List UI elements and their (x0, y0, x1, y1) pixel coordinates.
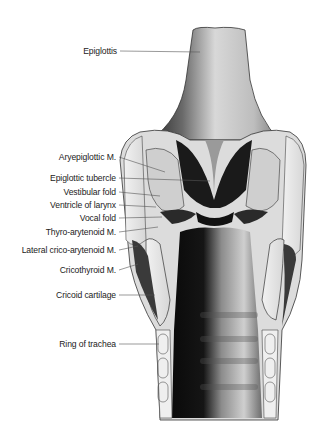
larynx-diagram: EpiglottisAryepiglottic M.Epiglottic tub… (0, 0, 328, 428)
label-ventricle-of-larynx: Ventricle of larynx (50, 200, 116, 210)
label-cricothyroid-m: Cricothyroid M. (60, 265, 116, 275)
left-trachea-wall (156, 330, 172, 418)
label-vestibular-fold: Vestibular fold (64, 187, 116, 197)
right-thyroid-cartilage (282, 136, 304, 256)
right-trachea-wall (262, 330, 278, 418)
leader-line-epiglottis (120, 51, 200, 52)
label-thyro-arytenoid-m: Thyro-arytenoid M. (46, 227, 116, 237)
larynx-illustration (0, 0, 328, 428)
label-cricoid-cartilage: Cricoid cartilage (56, 290, 116, 300)
label-epiglottis: Epiglottis (83, 46, 117, 56)
left-thyroid-cartilage (124, 136, 146, 245)
epiglottis-shape (150, 27, 280, 140)
label-vocal-fold: Vocal fold (80, 213, 116, 223)
label-ring-of-trachea: Ring of trachea (59, 339, 116, 349)
label-lateral-crico-arytenoid-m: Lateral crico-arytenoid M. (22, 245, 116, 255)
label-epiglottic-tubercle: Epiglottic tubercle (50, 173, 116, 183)
label-aryepiglottic-m: Aryepiglottic M. (59, 152, 116, 162)
right-vestibular-mass (246, 148, 280, 211)
